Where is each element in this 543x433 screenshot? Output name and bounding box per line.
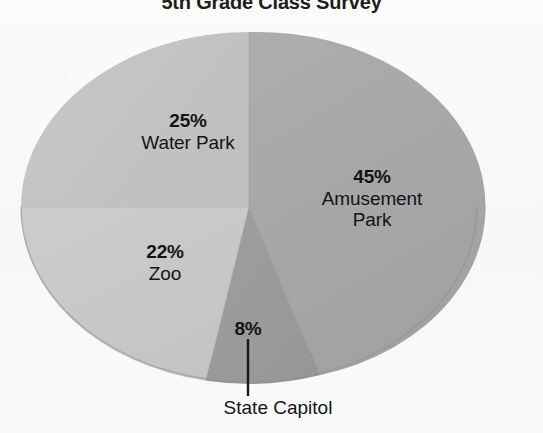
state-capitol-percent: 8% — [198, 318, 298, 340]
slice-label-amusement-park: 45% Amusement Park — [292, 166, 452, 231]
amusement-park-name-line2: Park — [292, 209, 452, 231]
zoo-percent: 22% — [105, 241, 225, 263]
slice-label-state-capitol-percent-wrap: 8% — [198, 318, 298, 340]
state-capitol-name: State Capitol — [168, 397, 388, 419]
slice-label-water-park: 25% Water Park — [108, 110, 268, 153]
chart-page: 5th Grade Class Survey — [0, 0, 543, 433]
page-title: 5th Grade Class Survey — [0, 0, 543, 14]
amusement-park-percent: 45% — [292, 166, 452, 188]
amusement-park-name-line1: Amusement — [292, 188, 452, 210]
water-park-percent: 25% — [108, 110, 268, 132]
zoo-name: Zoo — [105, 263, 225, 285]
pie-chart-graphic — [0, 0, 543, 433]
water-park-name: Water Park — [108, 132, 268, 154]
slice-label-zoo: 22% Zoo — [105, 241, 225, 284]
